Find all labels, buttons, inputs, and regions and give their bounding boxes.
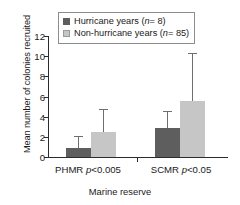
legend-n-value-hurricane: = 8) (150, 16, 166, 28)
x-tick-label-scmr: SCMR p<0.05 (151, 164, 212, 175)
legend-label-hurricane: Hurricane years ( (74, 16, 144, 28)
error-bar (167, 112, 168, 128)
legend-label-non-hurricane: Non-hurricane years ( (74, 28, 163, 40)
y-axis-tick-label: 2 (40, 131, 45, 142)
x-tick-reserve-scmr: SCMR (151, 164, 179, 175)
x-tick-label-phmr: PHMR p<0.005 (55, 164, 121, 175)
x-tick-pvalue-scmr: <0.05 (187, 164, 211, 175)
y-axis-tick-label: 0 (40, 152, 45, 163)
x-axis-line (48, 157, 228, 158)
error-bar (78, 137, 79, 149)
plot-area: 024681012 PHMR p<0.005 SCMR p<0.05 (48, 36, 228, 157)
bar (91, 132, 116, 157)
y-axis-line (48, 36, 49, 157)
bar (180, 101, 205, 157)
x-axis-group-tick (137, 157, 138, 162)
legend-swatch-light-icon (63, 30, 70, 37)
error-bar-cap (74, 136, 83, 137)
y-axis-title: Mean number of colonies recruited (22, 4, 32, 164)
y-axis-tick-label: 8 (40, 71, 45, 82)
error-bar-cap (163, 111, 172, 112)
error-bar-cap (188, 53, 197, 54)
y-axis-tick-label: 6 (40, 91, 45, 102)
x-tick-reserve-phmr: PHMR (55, 164, 83, 175)
bar-chart-figure: Mean number of colonies recruited 024681… (0, 0, 240, 205)
legend-n-value-non-hurricane: = 85) (168, 28, 189, 40)
y-axis-tick-label: 4 (40, 111, 45, 122)
x-axis-title: Marine reserve (0, 186, 240, 197)
legend-swatch-dark-icon (63, 18, 70, 25)
error-bar (192, 54, 193, 101)
y-axis-tick-label: 12 (34, 31, 45, 42)
y-axis-tick-label: 10 (34, 51, 45, 62)
bar (66, 148, 91, 157)
legend-item-non-hurricane: Non-hurricane years (n = 85) (63, 28, 189, 40)
legend: Hurricane years (n = 8) Non-hurricane ye… (58, 12, 195, 44)
legend-item-hurricane: Hurricane years (n = 8) (63, 16, 189, 28)
error-bar-cap (99, 109, 108, 110)
error-bar (103, 110, 104, 132)
x-tick-pvalue-phmr: <0.005 (91, 164, 121, 175)
bar (155, 128, 180, 157)
